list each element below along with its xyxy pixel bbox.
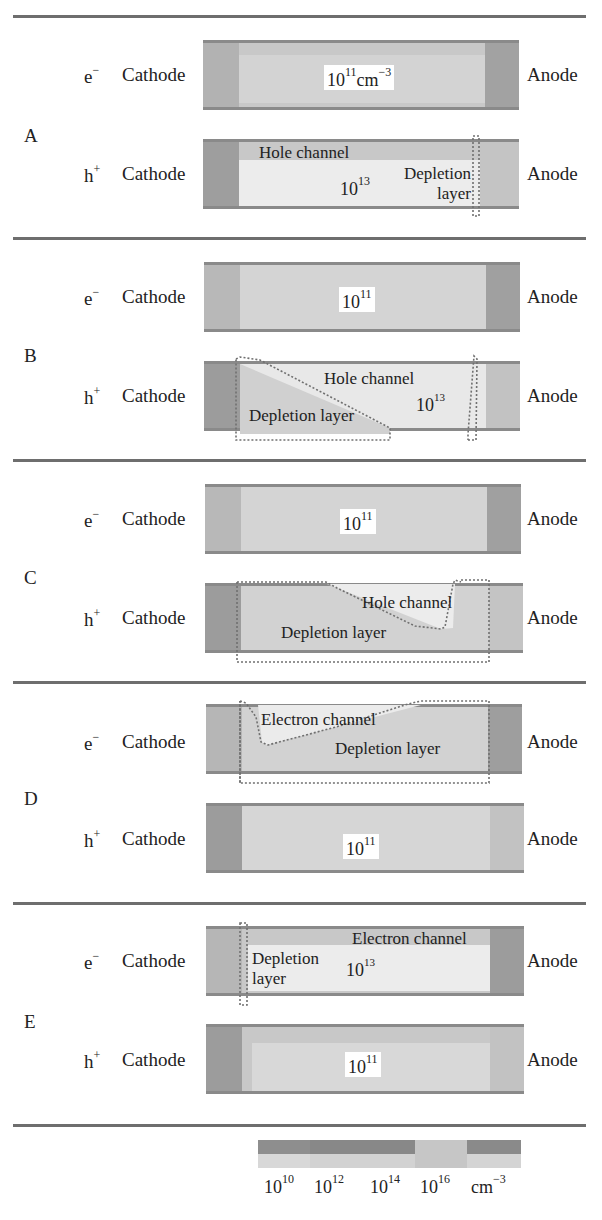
colorbar-tick-1e16: 1016 <box>420 1175 450 1198</box>
colorbar-segment-1e10 <box>258 1140 310 1168</box>
carrier-electron: e− <box>84 287 99 310</box>
anode-label: Anode <box>527 828 578 850</box>
device-bar-hole: 1011 <box>206 1024 524 1094</box>
device-bar-electron: Electron channel Depletionlayer 1013 <box>206 926 524 996</box>
separator-top <box>13 15 586 18</box>
anode-label: Anode <box>527 950 578 972</box>
carrier-hole: h+ <box>84 1050 100 1073</box>
device-bar-electron: Electron channel Depletion layer <box>206 704 522 774</box>
colorbar-segment-1e16 <box>467 1140 521 1168</box>
depletion-layer-label: Depletion layer <box>335 740 440 758</box>
cathode-label: Cathode <box>122 607 185 629</box>
cathode-region <box>204 364 240 428</box>
cathode-label: Cathode <box>122 1049 185 1071</box>
device-bar-hole: Hole channel 1013 Depletion layer <box>204 361 520 431</box>
concentration-label: 1011 <box>339 287 375 312</box>
anode-region <box>486 364 520 428</box>
cathode-region <box>205 586 241 650</box>
anode-region <box>485 43 519 107</box>
device-bar-electron: 1011cm−3 <box>203 40 519 110</box>
cathode-label: Cathode <box>122 286 185 308</box>
anode-label: Anode <box>527 508 578 530</box>
depletion-layer-label: Depletionlayer <box>393 164 471 204</box>
carrier-electron: e− <box>84 509 99 532</box>
anode-region <box>487 487 521 551</box>
cathode-region <box>205 487 241 551</box>
concentration-label: 1011 <box>345 1052 381 1077</box>
anode-label: Anode <box>527 1049 578 1071</box>
electron-channel-label: Electron channel <box>261 711 376 729</box>
anode-region <box>489 586 523 650</box>
hole-channel-label: Hole channel <box>259 144 349 162</box>
anode-label: Anode <box>527 385 578 407</box>
panel-label-c: C <box>24 567 37 589</box>
colorbar-unit: cm−3 <box>471 1175 506 1198</box>
carrier-electron: e− <box>84 732 99 755</box>
carrier-hole: h+ <box>84 164 100 187</box>
device-bar-hole: Hole channel Depletion layer <box>205 583 523 653</box>
depletion-layer-label: Depletion layer <box>249 407 354 425</box>
device-bar-hole: 1011 <box>206 803 524 873</box>
anode-label: Anode <box>527 731 578 753</box>
panel-label-a: A <box>24 125 38 147</box>
cathode-region <box>206 929 242 993</box>
anode-region <box>486 265 520 329</box>
panel-label-d: D <box>24 788 38 810</box>
concentration-label: 1013 <box>346 956 375 979</box>
anode-region <box>488 707 522 771</box>
anode-label: Anode <box>527 286 578 308</box>
cathode-region <box>204 265 240 329</box>
colorbar-segment-1e14 <box>415 1140 467 1168</box>
concentration-label: 1011 <box>343 834 379 859</box>
separator-cd <box>13 681 586 684</box>
carrier-hole: h+ <box>84 829 100 852</box>
anode-region <box>490 1027 524 1091</box>
cathode-label: Cathode <box>122 508 185 530</box>
electron-channel-label: Electron channel <box>352 930 467 948</box>
carrier-electron: e− <box>84 65 99 88</box>
concentration-label: 1013 <box>337 174 373 199</box>
device-bar-hole: Hole channel 1013 Depletionlayer <box>203 139 519 209</box>
anode-region <box>490 806 524 870</box>
separator-de <box>13 902 586 905</box>
panel-label-b: B <box>24 345 37 367</box>
cathode-region <box>203 43 239 107</box>
colorbar <box>258 1140 521 1168</box>
colorbar-tick-1e10: 1010 <box>264 1175 294 1198</box>
hole-channel-label: Hole channel <box>362 594 452 612</box>
cathode-label: Cathode <box>122 950 185 972</box>
carrier-hole: h+ <box>84 386 100 409</box>
anode-label: Anode <box>527 64 578 86</box>
separator-ab <box>13 237 586 240</box>
colorbar-tick-1e12: 1012 <box>314 1175 344 1198</box>
cathode-label: Cathode <box>122 163 185 185</box>
carrier-hole: h+ <box>84 608 100 631</box>
anode-region <box>490 929 524 993</box>
colorbar-segment-1e12 <box>310 1140 415 1168</box>
concentration-label: 1011 <box>340 509 376 534</box>
separator-bottom <box>13 1124 586 1127</box>
anode-region <box>480 142 519 206</box>
depletion-layer-label: Depletion layer <box>281 624 386 642</box>
cathode-region <box>203 142 239 206</box>
cathode-region <box>206 1027 242 1091</box>
hole-channel-label: Hole channel <box>324 370 414 388</box>
device-bar-electron: 1011 <box>204 262 520 332</box>
cathode-label: Cathode <box>122 731 185 753</box>
carrier-electron: e− <box>84 951 99 974</box>
anode-label: Anode <box>527 163 578 185</box>
separator-bc <box>13 459 586 462</box>
cathode-region <box>206 806 242 870</box>
cathode-label: Cathode <box>122 64 185 86</box>
anode-label: Anode <box>527 607 578 629</box>
concentration-label: 1011cm−3 <box>324 65 394 90</box>
cathode-region <box>206 707 242 771</box>
colorbar-tick-1e14: 1014 <box>370 1175 400 1198</box>
panel-label-e: E <box>24 1011 36 1033</box>
concentration-label: 1013 <box>416 391 445 414</box>
device-bar-electron: 1011 <box>205 484 521 554</box>
depletion-layer-label: Depletionlayer <box>252 949 319 989</box>
cathode-label: Cathode <box>122 828 185 850</box>
cathode-label: Cathode <box>122 385 185 407</box>
